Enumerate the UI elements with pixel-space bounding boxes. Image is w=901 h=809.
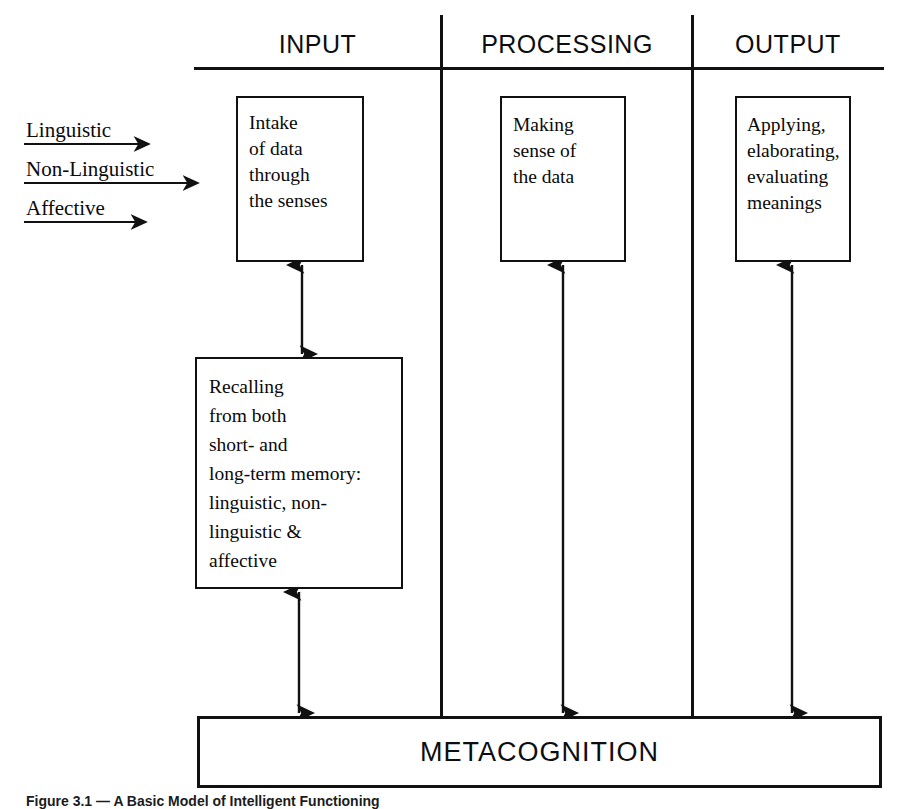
node-box-applying: Applying, elaborating, evaluating meanin… xyxy=(735,96,851,262)
node-box-intake-text: Intake of data through the senses xyxy=(249,110,358,214)
input-stream-label-linguistic: Linguistic xyxy=(26,120,111,141)
column-header-processing: PROCESSING xyxy=(442,30,692,59)
node-box-recalling: Recalling from both short- and long-term… xyxy=(195,357,403,589)
figure-caption: Figure 3.1 — A Basic Model of Intelligen… xyxy=(26,793,380,809)
metacognition-label: METACOGNITION xyxy=(200,737,879,768)
node-box-intake: Intake of data through the senses xyxy=(236,96,364,262)
metacognition-bar: METACOGNITION xyxy=(197,716,882,788)
node-box-making-sense: Making sense of the data xyxy=(500,96,626,262)
column-header-input: INPUT xyxy=(194,30,441,59)
column-header-output: OUTPUT xyxy=(693,30,883,59)
node-box-making-sense-text: Making sense of the data xyxy=(513,112,620,190)
node-box-applying-text: Applying, elaborating, evaluating meanin… xyxy=(747,112,845,216)
node-box-recalling-text: Recalling from both short- and long-term… xyxy=(209,372,397,575)
input-stream-label-affective: Affective xyxy=(26,198,105,219)
input-stream-label-non-linguistic: Non-Linguistic xyxy=(26,159,154,180)
